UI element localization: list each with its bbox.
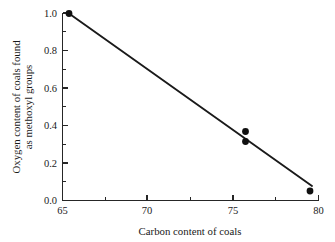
- x-tick-label-2: 75: [228, 205, 239, 216]
- data-point: [66, 10, 73, 17]
- y-axis-title-line2: as methoxyl groups: [22, 65, 34, 150]
- y-tick-label-0: 0.0: [44, 195, 57, 206]
- x-tick-label-0: 65: [57, 205, 68, 216]
- x-tick-label-3: 80: [313, 205, 324, 216]
- scatter-plot: 0.0 0.2 0.4 0.6 0.8 1.0 65 70 75 80 Carb…: [0, 0, 335, 242]
- y-tick-label-2: 0.4: [44, 120, 58, 131]
- chart-figure: 0.0 0.2 0.4 0.6 0.8 1.0 65 70 75 80 Carb…: [0, 0, 335, 242]
- data-point: [307, 188, 314, 195]
- data-point: [242, 128, 249, 135]
- x-tick-label-1: 70: [142, 205, 153, 216]
- y-axis-title-line1: Oxygen content of coals found: [10, 40, 22, 174]
- y-tick-label-1: 0.2: [44, 158, 57, 169]
- y-tick-label-3: 0.6: [44, 83, 57, 94]
- data-point: [242, 138, 249, 145]
- y-tick-label-4: 0.8: [44, 45, 57, 56]
- y-tick-label-5: 1.0: [44, 8, 57, 19]
- x-axis-title: Carbon content of coals: [139, 225, 242, 237]
